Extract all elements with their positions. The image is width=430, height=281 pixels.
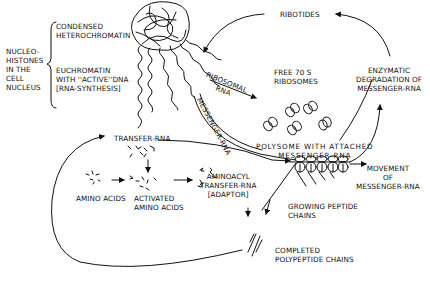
activated-amino-acids-label: ACTIVATED AMINO ACIDS <box>134 194 184 212</box>
diagram-artwork <box>0 0 430 281</box>
ribotides-return-arrow <box>204 14 264 52</box>
growing-peptide-chains-label: GROWING PEPTIDE CHAINS <box>288 202 358 220</box>
label-line: AMINOACYL <box>200 172 256 181</box>
label-line: POLYSOME WITH ATTACHED <box>256 142 373 151</box>
label-line: [RNA-SYNTHESIS] <box>56 84 129 93</box>
activated-fragments-icon <box>130 176 156 190</box>
label-line: HETEROCHROMATIN <box>56 31 131 40</box>
transfer-rna-label: TRANSFER-RNA <box>114 134 170 143</box>
free-ribosomes-label: FREE 70 S RIBOSOMES <box>274 68 318 86</box>
label-line: MOVEMENT <box>356 164 420 173</box>
label-line: IN THE <box>6 65 43 74</box>
label-line: POLYPEPTIDE CHAINS <box>275 255 354 264</box>
label-line: [ADAPTOR] <box>200 190 256 199</box>
label-line: ENZYMATIC <box>356 66 422 75</box>
label-line: MESSENGER-RNA <box>256 151 373 160</box>
label-line: FREE 70 S <box>274 68 318 77</box>
label-line: EUCHROMATIN <box>56 66 129 75</box>
label-line: OF <box>356 173 420 182</box>
label-line: ACTIVATED <box>134 194 184 203</box>
label-line: RIBOSOMES <box>274 77 318 86</box>
label-line: MESSENGER-RNA <box>356 182 420 191</box>
movement-label: MOVEMENT OF MESSENGER-RNA <box>356 164 420 191</box>
amino-acids-label: AMINO ACIDS <box>76 194 126 203</box>
euchromatin-label: EUCHROMATIN WITH ''ACTIVE''DNA [RNA-SYNT… <box>56 66 129 93</box>
ribotides-label: RIBOTIDES <box>280 10 320 19</box>
label-line: MESSENGER-RNA <box>356 84 422 93</box>
condensed-heterochromatin-label: CONDENSED HETEROCHROMATIN <box>56 22 131 40</box>
free-ribosome-icon <box>262 100 333 137</box>
label-line: DEGRADATION OF <box>356 75 422 84</box>
label-line: CONDENSED <box>56 22 131 31</box>
label-line: AMINO ACIDS <box>134 203 184 212</box>
amino-acid-fragments-icon <box>86 171 100 184</box>
label-line: NUCLEO- <box>6 47 43 56</box>
polysome-ribosomes-icon <box>290 156 350 186</box>
label-line: CHAINS <box>288 211 358 220</box>
polypeptide-chains-icon <box>248 234 262 256</box>
polysome-label: POLYSOME WITH ATTACHED MESSENGER-RNA <box>256 142 373 160</box>
enzymatic-degradation-label: ENZYMATIC DEGRADATION OF MESSENGER-RNA <box>356 66 422 93</box>
aminoacyl-trna-label: AMINOACYL TRANSFER-RNA [ADAPTOR] <box>200 172 256 199</box>
label-line: NUCLEUS <box>6 83 43 92</box>
label-line: TRANSFER-RNA <box>200 181 256 190</box>
label-line: HISTONES <box>6 56 43 65</box>
label-line: COMPLETED <box>275 246 354 255</box>
trna-fragments-icon <box>128 146 154 157</box>
label-line: WITH ''ACTIVE''DNA <box>56 75 129 84</box>
label-line: GROWING PEPTIDE <box>288 202 358 211</box>
chromatin-ball-icon <box>131 2 189 51</box>
label-line: CELL <box>6 74 43 83</box>
nucleohistones-brace-icon <box>47 22 56 108</box>
protein-synthesis-diagram: NUCLEO- HISTONES IN THE CELL NUCLEUS CON… <box>0 0 430 281</box>
nucleohistones-label: NUCLEO- HISTONES IN THE CELL NUCLEUS <box>6 47 43 92</box>
ribotides-arrow <box>336 14 390 56</box>
completed-polypeptide-chains-label: COMPLETED POLYPEPTIDE CHAINS <box>275 246 354 264</box>
